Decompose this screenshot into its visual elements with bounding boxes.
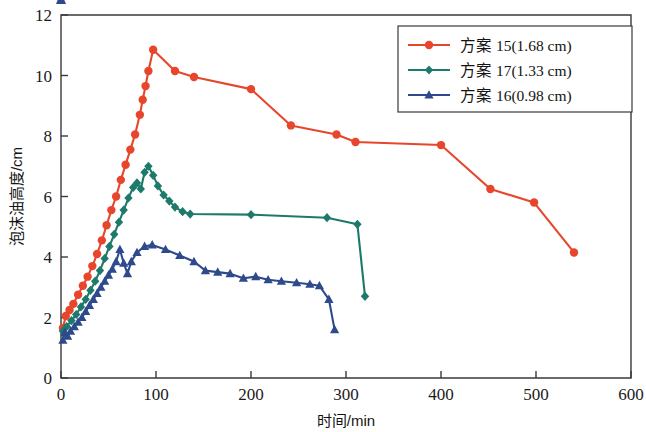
data-point-marker bbox=[178, 207, 186, 216]
x-axis-ticks bbox=[61, 371, 631, 378]
x-tick-label: 400 bbox=[428, 385, 454, 404]
x-tick-label: 200 bbox=[238, 385, 264, 404]
x-tick-label: 500 bbox=[523, 385, 549, 404]
data-point-marker bbox=[323, 213, 331, 222]
y-tick-label: 6 bbox=[44, 188, 53, 207]
data-point-marker bbox=[69, 300, 77, 308]
y-tick-label: 2 bbox=[44, 309, 53, 328]
data-point-marker bbox=[115, 245, 124, 253]
data-point-marker bbox=[108, 264, 117, 272]
data-point-marker bbox=[330, 325, 339, 333]
data-point-marker bbox=[351, 138, 359, 146]
data-point-marker bbox=[86, 286, 94, 295]
legend-label: 方案 16(0.98 cm) bbox=[460, 87, 572, 105]
y-tick-label: 4 bbox=[44, 248, 53, 267]
data-point-marker bbox=[190, 73, 198, 81]
y-axis-arrow-icon bbox=[56, 0, 66, 4]
series-2 bbox=[59, 162, 370, 336]
chart-container: 0100200300400500600 024681012 时间/min 泡沫油… bbox=[0, 0, 646, 432]
data-point-marker bbox=[93, 250, 101, 258]
y-tick-label: 0 bbox=[44, 369, 53, 388]
data-point-marker bbox=[141, 82, 149, 90]
data-point-marker bbox=[105, 242, 113, 251]
y-tick-label: 12 bbox=[35, 6, 52, 25]
data-point-marker bbox=[332, 130, 340, 138]
data-point-marker bbox=[119, 258, 128, 266]
legend-label: 方案 15(1.68 cm) bbox=[460, 37, 572, 55]
data-point-marker bbox=[486, 185, 494, 193]
data-point-marker bbox=[437, 141, 445, 149]
y-tick-label: 10 bbox=[35, 67, 52, 86]
data-point-marker bbox=[101, 254, 109, 263]
data-point-marker bbox=[530, 198, 538, 206]
chart-legend: 方案 15(1.68 cm)方案 17(1.33 cm)方案 16(0.98 c… bbox=[398, 26, 632, 112]
data-point-marker bbox=[361, 292, 369, 301]
data-point-marker bbox=[186, 209, 194, 218]
data-point-marker bbox=[91, 277, 99, 286]
x-tick-label: 100 bbox=[143, 385, 169, 404]
data-point-marker bbox=[112, 257, 121, 265]
data-point-marker bbox=[120, 206, 128, 215]
data-point-marker bbox=[139, 96, 147, 104]
y-tick-label: 8 bbox=[44, 127, 53, 146]
data-point-marker bbox=[247, 85, 255, 93]
x-axis-title: 时间/min bbox=[317, 412, 375, 429]
data-point-marker bbox=[121, 161, 129, 169]
data-point-marker bbox=[112, 192, 120, 200]
legend-label: 方案 17(1.33 cm) bbox=[460, 62, 572, 80]
data-point-marker bbox=[126, 145, 134, 153]
data-point-marker bbox=[102, 221, 110, 229]
data-point-marker bbox=[124, 193, 132, 202]
data-point-marker bbox=[117, 176, 125, 184]
data-point-marker bbox=[148, 240, 157, 248]
y-axis-title: 泡沫油高度/cm bbox=[8, 147, 25, 246]
data-point-marker bbox=[74, 291, 82, 299]
data-point-marker bbox=[88, 262, 96, 270]
data-point-marker bbox=[107, 206, 115, 214]
data-point-marker bbox=[144, 67, 152, 75]
data-point-marker bbox=[83, 272, 91, 280]
data-point-marker bbox=[353, 220, 361, 229]
x-axis-tick-labels: 0100200300400500600 bbox=[57, 385, 644, 404]
data-point-marker bbox=[98, 236, 106, 244]
x-tick-label: 300 bbox=[333, 385, 359, 404]
x-tick-label: 0 bbox=[57, 385, 66, 404]
data-point-marker bbox=[96, 266, 104, 275]
data-point-marker bbox=[247, 210, 255, 219]
data-point-marker bbox=[115, 218, 123, 227]
data-point-marker bbox=[123, 269, 132, 277]
data-point-marker bbox=[570, 248, 578, 256]
data-point-marker bbox=[79, 282, 87, 290]
data-point-marker bbox=[110, 230, 118, 239]
data-point-marker bbox=[171, 67, 179, 75]
x-tick-label: 600 bbox=[618, 385, 644, 404]
y-axis-tick-labels: 024681012 bbox=[35, 6, 53, 388]
data-point-marker bbox=[131, 130, 139, 138]
data-point-marker bbox=[287, 121, 295, 129]
data-point-marker bbox=[136, 111, 144, 119]
foam-oil-height-line-chart: 0100200300400500600 024681012 时间/min 泡沫油… bbox=[0, 0, 646, 432]
data-point-marker bbox=[149, 171, 157, 180]
data-point-marker bbox=[425, 41, 433, 49]
data-point-marker bbox=[149, 46, 157, 54]
